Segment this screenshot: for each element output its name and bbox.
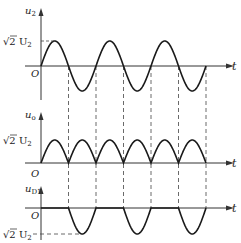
peak-value-label: √2 U2 — [3, 135, 32, 148]
vertical-axis-arrow-icon — [39, 8, 44, 16]
origin-label: O — [31, 210, 39, 221]
time-label: t — [232, 157, 237, 170]
peak-value-label: √2 U2 — [3, 36, 32, 49]
peak-value-label: √2 U2 — [3, 229, 32, 242]
rectifier-waveform-diagram: tu2O√2 U2tuoO√2 U2tuD1O√2 U2 — [0, 0, 241, 243]
time-label: t — [232, 60, 237, 73]
vertical-axis-arrow-icon — [39, 112, 44, 120]
axis-name-label: u2 — [25, 5, 36, 18]
axis-name-label: uD1 — [25, 183, 42, 196]
waveform-canvas: tu2O√2 U2tuoO√2 U2tuD1O√2 U2 — [0, 0, 241, 243]
origin-label: O — [31, 68, 39, 79]
uD1-waveform — [41, 208, 206, 234]
origin-label: O — [31, 168, 39, 179]
axis-name-label: uo — [25, 109, 36, 122]
time-label: t — [232, 202, 237, 215]
